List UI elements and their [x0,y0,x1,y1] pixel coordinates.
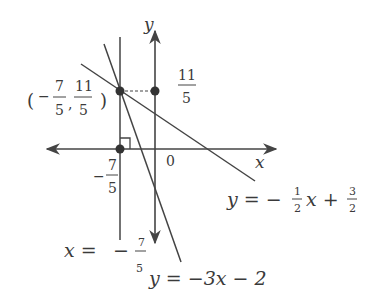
svg-text:−: − [38,88,50,104]
svg-text:−: − [113,239,129,261]
y-tick-label: 11 5 [178,67,196,106]
y-axis-label: y [143,14,154,34]
svg-text:11: 11 [75,78,93,94]
svg-text:5: 5 [55,102,64,118]
intersection-label: ( − 7 5 , 11 5 ) [27,78,107,118]
x-foot-point [116,145,125,154]
x-axis-label: x [255,152,265,172]
diagram-canvas: y x 0 11 5 ( − 7 5 , 11 5 ) 7 − 5 y = − … [0,0,368,306]
svg-text:x +: x + [306,188,339,210]
equation-shallow-line: y = − 1 2 x + 3 2 [226,185,357,215]
svg-text:7: 7 [138,236,145,249]
svg-text:5: 5 [136,262,143,275]
svg-text:5: 5 [79,102,88,118]
equation-vertical-line: x = − 7 5 [64,236,146,275]
svg-text:11: 11 [178,67,196,83]
origin-label: 0 [166,153,175,169]
svg-text:5: 5 [182,90,191,106]
y-intercept-point [151,87,160,96]
svg-text:(: ( [27,90,34,111]
svg-text:3: 3 [349,185,356,198]
intersection-point [116,87,125,96]
svg-text:,: , [68,96,72,112]
svg-text:1: 1 [294,185,301,198]
svg-text:2: 2 [349,202,356,215]
x-tick-label: 7 − 5 [93,157,118,196]
svg-text:7: 7 [55,78,64,94]
svg-text:x =: x = [64,239,97,261]
svg-text:): ) [100,90,107,111]
svg-text:−: − [93,168,105,184]
equation-steep-line: y = −3x − 2 [148,267,267,289]
svg-text:y = −: y = − [226,188,282,210]
svg-text:5: 5 [108,180,117,196]
svg-text:7: 7 [108,157,117,173]
svg-text:2: 2 [294,202,301,215]
